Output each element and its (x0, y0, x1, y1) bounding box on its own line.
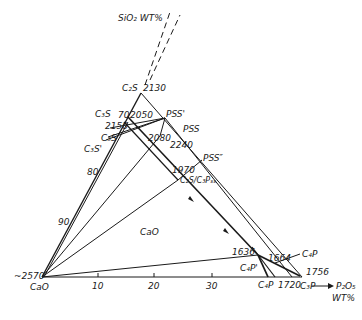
tick-10: 10 (92, 282, 103, 291)
c3s-label: C₃S (95, 110, 111, 119)
p2o5-axis-label: P₂O₅ (336, 282, 356, 291)
t1720-label: 1720 (278, 281, 301, 290)
c4p-label: C₄P (302, 250, 317, 259)
pss-label: PSS (183, 125, 200, 134)
t2240-label: 2240 (170, 141, 193, 150)
cao-temp: ~2570 (14, 272, 44, 281)
t1636-label: 1636 (232, 248, 255, 257)
t1970-label: 1970 (172, 166, 195, 175)
c4p-base-label: C₄P (258, 281, 273, 290)
t1664-label: 1664 (268, 254, 291, 263)
c4p-prime-label: C₄P' (240, 264, 258, 273)
cao-vertex-label: CaO (30, 283, 49, 292)
pss-dprime-label: PSS″ (203, 154, 223, 163)
c2s-label: C₂S (122, 84, 138, 93)
c3p-temp: 1756 (306, 268, 329, 277)
p2o5-unit-label: WT% (332, 294, 355, 303)
c3p-label: C₃P (300, 282, 315, 291)
t70-label: 70 (118, 111, 129, 120)
tick-30: 30 (206, 282, 217, 291)
t90-label: 90 (58, 218, 69, 227)
t2150-label: 2150 (105, 122, 128, 131)
t2080-label: 2080 (148, 134, 171, 143)
tick-20: 20 (148, 282, 159, 291)
t80-label: 80 (87, 168, 98, 177)
pss-prime-label: PSS' (166, 110, 185, 119)
cao-field-label: CaO (140, 228, 159, 237)
c3s-prime-label: C₃S (101, 134, 117, 143)
c2s-temp: 2130 (143, 84, 166, 93)
t2050-label: 2050 (130, 111, 153, 120)
c3s-dprime-label: C₃S' (84, 145, 102, 154)
c2s-c3p-label: C₂S/C₃Pₛₛ (180, 177, 216, 185)
sio2-axis-label: SiO₂ WT% (118, 14, 163, 23)
